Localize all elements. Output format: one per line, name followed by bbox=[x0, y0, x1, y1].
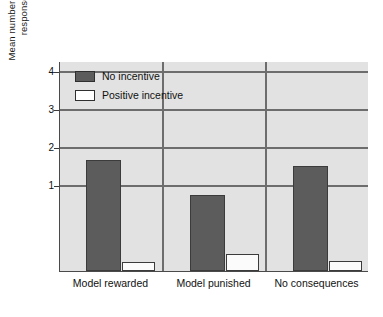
y-tick-label-3: 3 bbox=[40, 105, 54, 115]
bar-model-punished-positive-incentive bbox=[226, 254, 259, 271]
bar-chart: Mean number of different imitative respo… bbox=[0, 0, 383, 317]
gridline-3 bbox=[60, 109, 368, 111]
y-tick-label-2: 2 bbox=[40, 143, 54, 153]
y-axis-title: Mean number of different imitative respo… bbox=[6, 0, 36, 92]
bar-model-rewarded-positive-incentive bbox=[122, 262, 155, 271]
legend: No incentive Positive incentive bbox=[75, 68, 183, 106]
y-axis-tick-labels: 4 3 2 1 bbox=[38, 0, 54, 317]
legend-label-no-incentive: No incentive bbox=[102, 71, 160, 82]
y-tick-label-4: 4 bbox=[40, 67, 54, 77]
bar-no-consequences-positive-incentive bbox=[329, 261, 362, 271]
x-label-no-consequences: No consequences bbox=[265, 277, 368, 289]
y-axis-title-line-1: Mean number of different imitative bbox=[6, 0, 18, 92]
x-axis-category-labels: Model rewarded Model punished No consequ… bbox=[59, 277, 368, 293]
x-label-model-rewarded: Model rewarded bbox=[59, 277, 162, 289]
y-axis-title-line-2: responses reproduced bbox=[18, 0, 30, 92]
legend-label-positive-incentive: Positive incentive bbox=[102, 90, 183, 101]
bar-model-rewarded-no-incentive bbox=[86, 160, 121, 271]
legend-swatch-icon-positive-incentive bbox=[75, 90, 95, 101]
legend-item-no-incentive: No incentive bbox=[75, 68, 183, 84]
legend-item-positive-incentive: Positive incentive bbox=[75, 87, 183, 103]
x-label-model-punished: Model punished bbox=[162, 277, 265, 289]
bar-model-punished-no-incentive bbox=[190, 195, 225, 271]
y-tick-label-1: 1 bbox=[40, 181, 54, 191]
bar-no-consequences-no-incentive bbox=[293, 166, 328, 271]
gridline-2 bbox=[60, 147, 368, 149]
legend-swatch-icon-no-incentive bbox=[75, 71, 95, 82]
group-separator-2 bbox=[265, 62, 267, 271]
